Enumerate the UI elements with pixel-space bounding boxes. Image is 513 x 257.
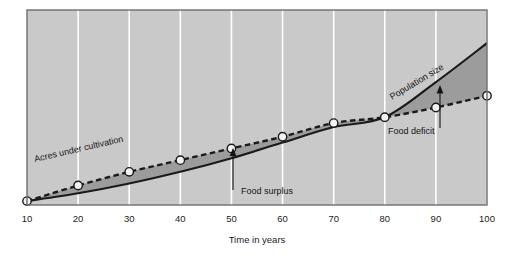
data-point-marker: [176, 156, 184, 164]
x-tick-40: 40: [175, 213, 186, 224]
data-point-marker: [74, 181, 82, 189]
chart-figure: 102030405060708090100 Time in years Acre…: [0, 0, 513, 257]
population-food-chart: 102030405060708090100 Time in years Acre…: [0, 0, 513, 257]
data-point-marker: [329, 119, 337, 127]
x-tick-50: 50: [226, 213, 237, 224]
x-tick-90: 90: [431, 213, 442, 224]
x-tick-70: 70: [328, 213, 339, 224]
data-point-marker: [381, 113, 389, 121]
x-tick-60: 60: [277, 213, 288, 224]
x-tick-100: 100: [479, 213, 495, 224]
x-tick-80: 80: [379, 213, 390, 224]
food-deficit-label: Food deficit: [388, 126, 435, 136]
x-tick-30: 30: [124, 213, 135, 224]
x-tick-10: 10: [22, 213, 33, 224]
x-axis-tick-labels: 102030405060708090100: [22, 213, 495, 224]
data-point-marker: [125, 168, 133, 176]
data-point-marker: [432, 103, 440, 111]
x-tick-20: 20: [73, 213, 84, 224]
data-point-marker: [278, 133, 286, 141]
food-surplus-label: Food surplus: [241, 186, 294, 196]
x-axis-title: Time in years: [229, 234, 286, 245]
